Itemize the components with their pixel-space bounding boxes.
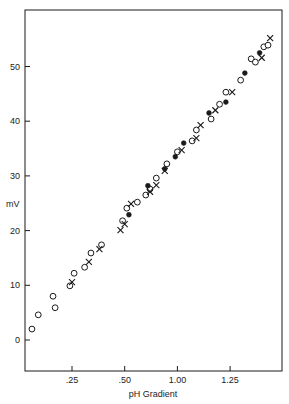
cross-marker bbox=[259, 55, 265, 61]
open-circle-marker bbox=[208, 116, 214, 122]
cross-marker bbox=[86, 259, 92, 265]
cross-marker bbox=[193, 135, 199, 141]
cross-marker bbox=[117, 227, 123, 233]
open-circle-marker bbox=[82, 264, 88, 270]
x-tick-label: 1.00 bbox=[169, 375, 187, 385]
y-tick-label: 10 bbox=[10, 280, 20, 290]
x-axis-label: pH Gradient bbox=[129, 389, 178, 399]
x-tick-label: .25 bbox=[66, 375, 79, 385]
filled-circle-marker bbox=[257, 50, 262, 55]
open-circle-marker bbox=[217, 101, 223, 107]
x-tick-label: .50 bbox=[118, 375, 131, 385]
scatter-chart: 01020304050 .25.501.001.25 mV pH Gradien… bbox=[0, 0, 289, 404]
x-tick-label: 1.25 bbox=[221, 375, 239, 385]
x-axis-ticks: .25.501.001.25 bbox=[66, 366, 239, 385]
open-circle-marker bbox=[164, 161, 170, 167]
open-circle-marker bbox=[252, 59, 258, 65]
y-axis-label: mV bbox=[6, 199, 20, 209]
y-tick-label: 30 bbox=[10, 171, 20, 181]
y-tick-label: 40 bbox=[10, 116, 20, 126]
filled-circle-marker bbox=[145, 183, 150, 188]
y-tick-label: 0 bbox=[15, 335, 20, 345]
filled-circle-marker bbox=[127, 212, 132, 217]
filled-circle-marker bbox=[162, 166, 167, 171]
plot-frame bbox=[25, 10, 282, 371]
filled-circle-marker bbox=[207, 111, 212, 116]
filled-circle-marker bbox=[181, 141, 186, 146]
open-circle-marker bbox=[223, 89, 229, 95]
open-circle-marker bbox=[153, 175, 159, 181]
open-circle-marker bbox=[120, 218, 126, 224]
open-circle-marker bbox=[134, 199, 140, 205]
cross-marker bbox=[229, 89, 235, 95]
cross-marker bbox=[267, 35, 273, 41]
y-tick-label: 50 bbox=[10, 62, 20, 72]
cross-marker bbox=[153, 182, 159, 188]
data-points bbox=[29, 35, 273, 332]
filled-circle-marker bbox=[223, 100, 228, 105]
open-circle-marker bbox=[29, 326, 35, 332]
open-circle-marker bbox=[35, 312, 41, 318]
cross-marker bbox=[212, 107, 218, 113]
cross-marker bbox=[128, 201, 134, 207]
cross-marker bbox=[198, 122, 204, 128]
open-circle-marker bbox=[143, 192, 149, 198]
open-circle-marker bbox=[88, 250, 94, 256]
y-tick-label: 20 bbox=[10, 226, 20, 236]
open-circle-marker bbox=[50, 293, 56, 299]
filled-circle-marker bbox=[173, 154, 178, 159]
open-circle-marker bbox=[238, 77, 244, 83]
open-circle-marker bbox=[265, 42, 271, 48]
filled-circle-marker bbox=[242, 71, 247, 76]
open-circle-marker bbox=[71, 270, 77, 276]
open-circle-marker bbox=[52, 305, 58, 311]
